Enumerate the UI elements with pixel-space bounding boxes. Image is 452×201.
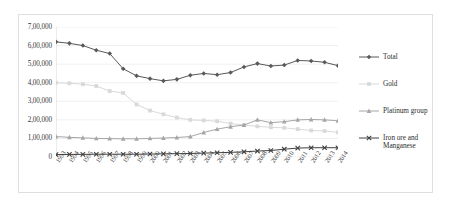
data-point-marker bbox=[121, 91, 125, 95]
data-point-marker bbox=[135, 103, 139, 107]
data-point-marker bbox=[202, 119, 206, 123]
data-series bbox=[56, 81, 338, 134]
legend-marker-icon bbox=[358, 133, 380, 143]
legend-item[interactable]: Total bbox=[358, 52, 450, 62]
data-point-marker bbox=[108, 89, 112, 93]
series-canvas bbox=[56, 27, 338, 157]
data-point-marker bbox=[148, 109, 152, 113]
data-point-marker bbox=[296, 127, 300, 131]
data-point-marker bbox=[256, 124, 260, 128]
data-point-marker bbox=[336, 130, 338, 134]
data-point-marker bbox=[309, 129, 313, 133]
data-point-marker bbox=[201, 71, 206, 76]
data-point-marker bbox=[188, 118, 192, 122]
data-point-marker bbox=[255, 61, 260, 66]
data-point-marker bbox=[81, 82, 85, 86]
chart-figure: 7,00,0006,00,0005,00,0004,00,0003,00,000… bbox=[0, 0, 452, 201]
data-point-marker bbox=[94, 48, 99, 53]
data-point-marker bbox=[282, 126, 286, 130]
data-point-marker bbox=[148, 76, 153, 81]
data-point-marker bbox=[94, 84, 98, 88]
legend-marker-icon bbox=[358, 79, 380, 89]
legend-item[interactable]: Gold bbox=[358, 79, 450, 89]
legend-label: Gold bbox=[383, 79, 397, 88]
data-series bbox=[56, 146, 338, 157]
data-point-marker bbox=[215, 72, 220, 77]
legend-marker-icon bbox=[358, 52, 380, 62]
legend-label: Platinum group bbox=[383, 106, 428, 115]
data-point-marker bbox=[175, 77, 180, 82]
legend-label: Total bbox=[383, 52, 398, 61]
legend-marker-icon bbox=[358, 106, 380, 116]
data-point-marker bbox=[242, 65, 247, 70]
data-point-marker bbox=[215, 119, 219, 123]
data-point-marker bbox=[269, 125, 273, 129]
data-point-marker bbox=[367, 82, 371, 86]
legend-item[interactable]: Iron ore and Manganese bbox=[358, 133, 450, 143]
data-point-marker bbox=[81, 43, 86, 48]
data-series bbox=[56, 40, 338, 84]
series-line bbox=[56, 42, 338, 81]
data-point-marker bbox=[228, 70, 233, 75]
series-line bbox=[56, 83, 338, 133]
legend-item[interactable]: Platinum group bbox=[358, 106, 450, 116]
chart-legend: TotalGoldPlatinum groupIron ore and Mang… bbox=[358, 52, 450, 160]
data-point-marker bbox=[295, 58, 300, 63]
data-point-marker bbox=[134, 74, 139, 79]
data-point-marker bbox=[282, 63, 287, 68]
data-point-marker bbox=[68, 81, 72, 85]
series-line bbox=[56, 148, 338, 155]
data-point-marker bbox=[367, 55, 372, 60]
plot-area bbox=[56, 27, 338, 157]
data-point-marker bbox=[56, 81, 58, 85]
data-point-marker bbox=[56, 40, 58, 45]
data-point-marker bbox=[309, 59, 314, 64]
data-point-marker bbox=[323, 129, 327, 133]
data-point-marker bbox=[162, 112, 166, 116]
data-point-marker bbox=[67, 41, 72, 46]
data-point-marker bbox=[188, 73, 193, 78]
legend-label: Iron ore and Manganese bbox=[383, 133, 418, 150]
data-point-marker bbox=[175, 116, 179, 120]
